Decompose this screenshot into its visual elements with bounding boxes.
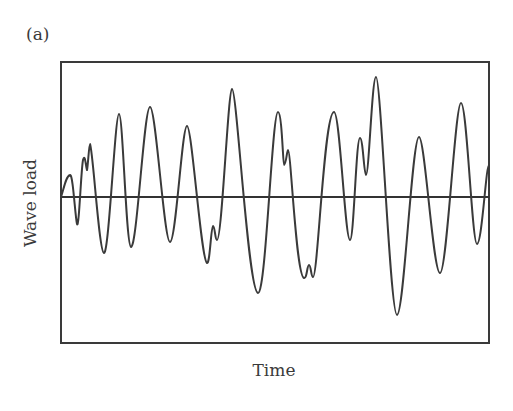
plot-area <box>0 0 513 411</box>
y-axis-label: Wave load <box>20 159 40 247</box>
x-axis-label: Time <box>253 360 296 380</box>
